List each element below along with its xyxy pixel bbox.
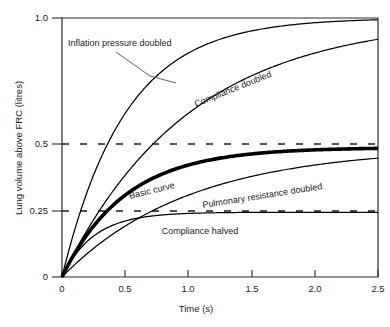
y-ticklabel-1-0: 1.0 (35, 12, 48, 23)
lung-volume-time-chart: 1.0 0.5 0.25 0 0 0.5 1.0 1.5 2.0 2.5 Tim… (0, 0, 390, 327)
x-ticklabel-2-0: 2.0 (308, 283, 321, 294)
y-ticklabel-0-25: 0.25 (30, 205, 49, 216)
curve-compliance-halved (62, 212, 378, 277)
axes-box (62, 18, 378, 277)
x-ticklabel-1-5: 1.5 (245, 283, 258, 294)
x-ticklabel-0: 0 (59, 283, 64, 294)
x-ticklabel-1-0: 1.0 (181, 283, 194, 294)
plot-frame (62, 18, 378, 277)
x-axis-title: Time (s) (179, 303, 213, 314)
curve-pulmonary-resistance-doubled (62, 158, 378, 277)
annotation-basic-curve: Basic curve (128, 180, 176, 201)
x-ticklabel-0-5: 0.5 (118, 283, 131, 294)
annotation-compliance-doubled: Compliance doubled (193, 69, 273, 109)
y-axis-ticks (52, 18, 62, 277)
y-ticklabel-0-5: 0.5 (35, 138, 48, 149)
chart-container: 1.0 0.5 0.25 0 0 0.5 1.0 1.5 2.0 2.5 Tim… (0, 0, 390, 327)
curve-group (62, 20, 378, 277)
x-axis-ticks (62, 270, 378, 277)
annotation-inflation-pressure-doubled: Inflation pressure doubled (68, 38, 172, 48)
y-axis-title: Lung volume above FRC (litres) (13, 81, 24, 215)
x-axis-tick-labels: 0 0.5 1.0 1.5 2.0 2.5 (59, 283, 384, 294)
y-axis-tick-labels: 1.0 0.5 0.25 0 (30, 12, 49, 282)
annotation-compliance-halved: Compliance halved (162, 226, 239, 236)
annotation-pulmonary-resistance-doubled: Pulmonary resistance doubled (202, 181, 323, 210)
x-ticklabel-2-5: 2.5 (371, 283, 384, 294)
y-ticklabel-0: 0 (43, 271, 48, 282)
